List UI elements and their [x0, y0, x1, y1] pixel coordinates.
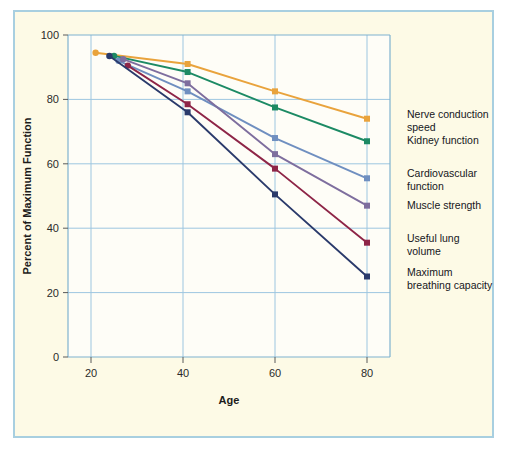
legend-entry-4: Useful lungvolume — [407, 232, 460, 257]
legend-entry-0: Nerve conductionspeed — [407, 108, 489, 133]
x-axis-title: Age — [219, 394, 240, 406]
marker-1-3 — [364, 138, 370, 144]
marker-2-1 — [185, 88, 191, 94]
plot-wrapper: 020406080100 20406080 Age Percent of Max… — [15, 12, 496, 440]
legend-label-line2-4: volume — [407, 245, 441, 257]
y-tick-label-80: 80 — [47, 93, 59, 105]
legend-label-line1-5: Maximum — [407, 266, 453, 278]
marker-0-3 — [364, 116, 370, 122]
y-tick-label-100: 100 — [41, 29, 59, 41]
x-tick-label-60: 60 — [269, 367, 281, 379]
y-axis-title: Percent of Maximum Function — [21, 117, 33, 274]
legend-entry-1: Kidney function — [407, 134, 479, 146]
marker-5-1 — [185, 109, 191, 115]
marker-1-2 — [272, 104, 278, 110]
marker-3-2 — [272, 151, 278, 157]
x-axis-ticks: 20406080 — [85, 357, 373, 379]
chart-figure: 020406080100 20406080 Age Percent of Max… — [0, 0, 507, 449]
marker-2-2 — [272, 135, 278, 141]
marker-3-0 — [120, 56, 126, 62]
marker-1-1 — [185, 69, 191, 75]
y-tick-label-0: 0 — [53, 351, 59, 363]
plot-area-background — [68, 35, 390, 357]
marker-5-0 — [106, 53, 112, 59]
legend-entry-2: Cardiovascularfunction — [407, 167, 478, 192]
marker-0-2 — [272, 88, 278, 94]
x-tick-label-20: 20 — [85, 367, 97, 379]
legend-label-line1-1: Kidney function — [407, 134, 479, 146]
y-axis-ticks: 020406080100 — [41, 29, 68, 363]
legend-label-line1-3: Muscle strength — [407, 199, 481, 211]
marker-0-1 — [185, 61, 191, 67]
legend-label-line2-2: function — [407, 180, 444, 192]
chart-frame: 020406080100 20406080 Age Percent of Max… — [13, 10, 494, 438]
legend-label-line2-5: breathing capacity — [407, 279, 493, 291]
marker-3-3 — [364, 203, 370, 209]
legend-entry-5: Maximumbreathing capacity — [407, 266, 493, 291]
legend-entry-3: Muscle strength — [407, 199, 481, 211]
marker-4-2 — [272, 166, 278, 172]
y-tick-label-20: 20 — [47, 287, 59, 299]
x-tick-label-40: 40 — [177, 367, 189, 379]
marker-4-1 — [185, 101, 191, 107]
line-chart-svg: 020406080100 20406080 Age Percent of Max… — [15, 12, 496, 440]
marker-0-0 — [92, 50, 98, 56]
marker-2-3 — [364, 175, 370, 181]
legend-label-line1-2: Cardiovascular — [407, 167, 478, 179]
marker-5-3 — [364, 274, 370, 280]
y-tick-label-60: 60 — [47, 158, 59, 170]
marker-3-1 — [185, 80, 191, 86]
x-tick-label-80: 80 — [361, 367, 373, 379]
legend-label-line1-4: Useful lung — [407, 232, 460, 244]
legend-label-line1-0: Nerve conduction — [407, 108, 489, 120]
legend-label-line2-0: speed — [407, 121, 436, 133]
marker-4-3 — [364, 240, 370, 246]
legend: Nerve conductionspeedKidney functionCard… — [407, 108, 493, 291]
y-tick-label-40: 40 — [47, 222, 59, 234]
marker-5-2 — [272, 191, 278, 197]
